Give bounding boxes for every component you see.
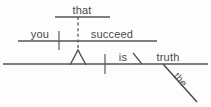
word-the: the — [172, 71, 190, 89]
predicate-nominative-slant — [133, 53, 142, 64]
sentence-diagram-svg: that you succeed is truth the — [0, 0, 211, 107]
word-truth: truth — [156, 51, 179, 63]
word-is: is — [119, 51, 128, 63]
word-that: that — [72, 4, 91, 16]
sentence-diagram-canvas: that you succeed is truth the — [0, 0, 211, 107]
clause-peak-connector — [70, 50, 86, 65]
word-you: you — [31, 28, 49, 40]
word-succeed: succeed — [91, 28, 133, 40]
